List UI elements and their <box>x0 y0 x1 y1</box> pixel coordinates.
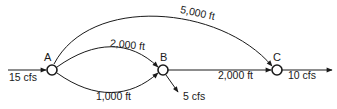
node-a <box>47 65 57 75</box>
pipe-a-b-lower-length: 1,000 ft <box>96 90 131 102</box>
outflow-c-label: 10 cfs <box>288 69 316 81</box>
pipe-b-c-length: 2,000 ft <box>218 69 253 81</box>
inflow-a-label: 15 cfs <box>9 71 37 83</box>
outflow-b-label: 5 cfs <box>183 90 205 102</box>
node-c-label: C <box>273 51 281 63</box>
pipe-network-diagram: A B C 5,000 ft 2,000 ft 1,000 ft 2,000 f… <box>0 0 337 109</box>
outflow-b-arrow <box>166 75 178 92</box>
node-a-label: A <box>44 51 52 63</box>
pipe-a-b-upper-length: 2,000 ft <box>110 36 146 52</box>
node-c <box>272 65 282 75</box>
node-b <box>158 65 168 75</box>
node-b-label: B <box>160 51 167 63</box>
